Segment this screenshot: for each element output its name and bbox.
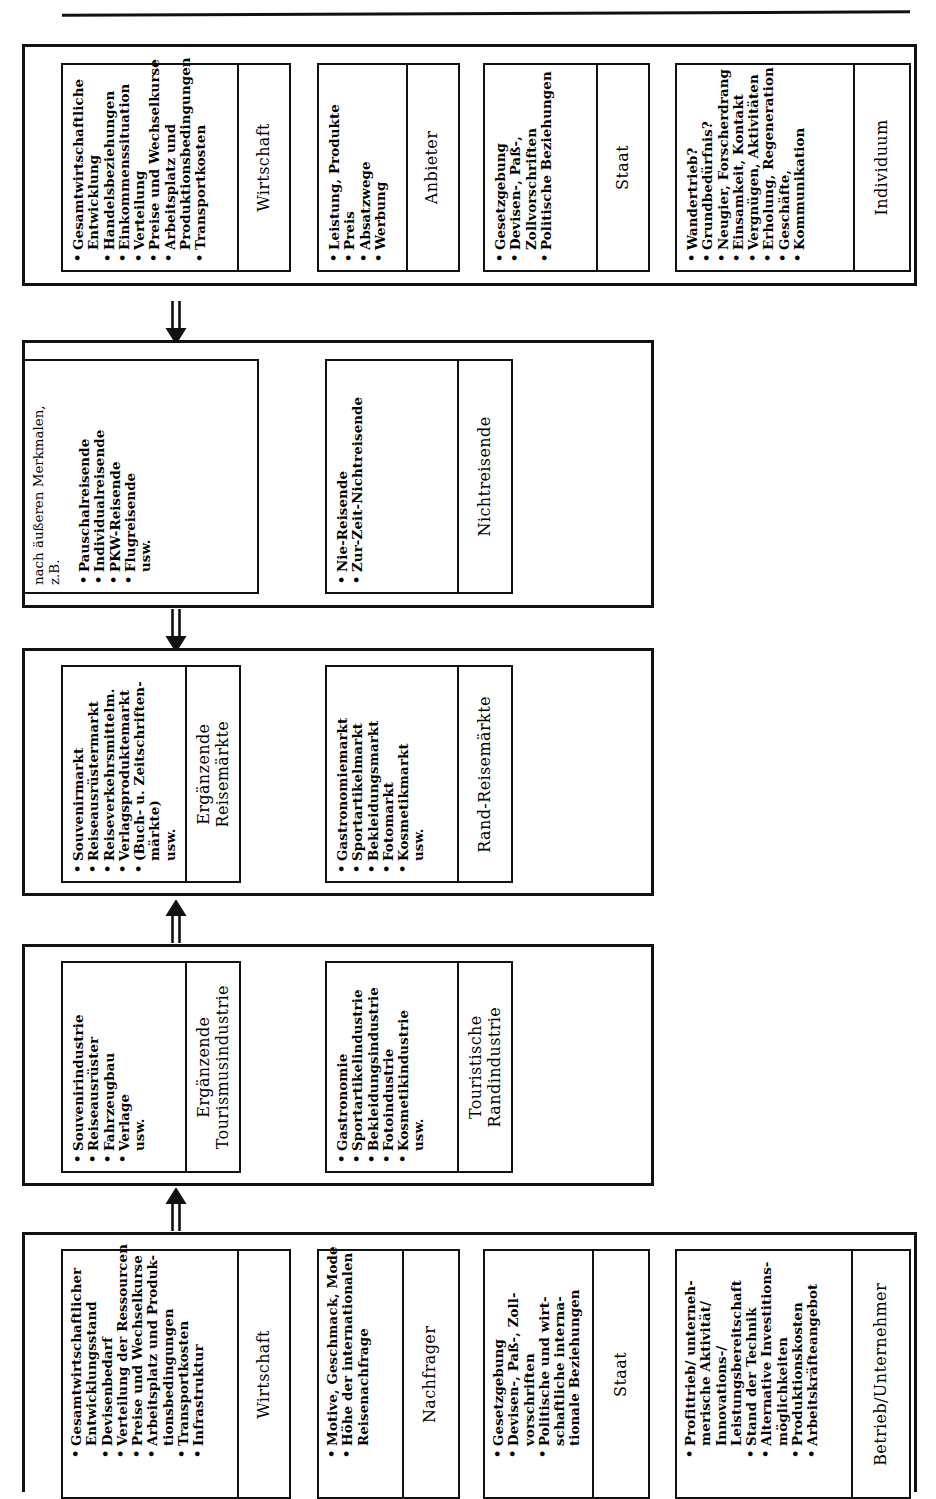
list-item: Produktionsbedingungen (178, 57, 193, 263)
list-item: Politische Beziehungen (539, 71, 554, 263)
box-title-cell: Betrieb/Unternehmer (851, 1251, 909, 1497)
item-list: Nie-Reisende Zur-Zeit-Nichtreisende (335, 397, 366, 585)
box-title-cell: Anbieter (406, 65, 458, 270)
box-individuum: Individuum Wandertrieb? Grundbedürfnis? … (675, 63, 911, 272)
box-title: Wirtschaft (255, 1330, 274, 1419)
list-item: Kosmetikindustrie (396, 987, 411, 1164)
list-item: Motive, Geschmack, Mode (325, 1246, 340, 1459)
list-item: Politische und wirt- (537, 1289, 552, 1459)
list-item: Einkommenssituation (117, 57, 132, 263)
list-item: Fotomarkt (381, 718, 396, 874)
band-einflussfaktoren-produktion: Wirtschaft Gesamtwirtschaftlicher Entwic… (22, 1232, 917, 1492)
box-title-line-1: Ergänzende (194, 1016, 213, 1117)
list-item: Arbeitskräfteangebot (805, 1261, 820, 1459)
list-item: Devisenbedarf (100, 1244, 115, 1459)
list-item: Reiseausrüstermarkt (86, 681, 101, 874)
box-title-cell: Wirtschaft (237, 1251, 289, 1497)
box-title-line-1: Ergänzende (194, 723, 213, 824)
list-item: Preis (342, 104, 357, 263)
list-item: Reiseausrüster (86, 1014, 101, 1164)
list-item: märkte) (147, 681, 162, 874)
arrow-up-2-icon (163, 1186, 189, 1232)
list-item: Arbeitsplatz und (163, 57, 178, 263)
box-title: Ergänzende Tourismusindustrie (194, 985, 232, 1149)
list-item: Geschäfte, (777, 67, 792, 263)
box-body-cell: Gesetzgebung Devisen-, Paß-, Zoll- vorsc… (485, 1251, 592, 1497)
list-item: Nie-Reisende (335, 397, 350, 585)
box-title: Anbieter (424, 131, 443, 204)
box-title-cell: Nachfrager (402, 1251, 458, 1497)
box-title: Staat (612, 1352, 631, 1397)
list-item: Gesamtwirtschaftlicher (69, 1244, 84, 1459)
item-list: Gesamtwirtschaftliche Entwicklung Handel… (71, 57, 209, 263)
box-title: Nichtreisende (476, 417, 495, 537)
list-item: Höhe der internationalen (340, 1246, 355, 1459)
band-ergaenzende-reisemaerkte: Ergänzende Reisemärkte Souvenirmarkt Rei… (22, 648, 654, 896)
box-title: Wirtschaft (255, 123, 274, 212)
list-item: Arbeitsplatz und Produk- (145, 1244, 160, 1459)
box-title-cell: Staat (596, 65, 648, 270)
list-item: Reiseverkehrsmittelm. (102, 681, 117, 874)
list-item: Verlage (117, 1014, 132, 1164)
list-item: Preise und Wechselkurse (147, 57, 162, 263)
list-item: usw. (163, 681, 178, 874)
list-item: Einsamkeit, Kontakt (731, 67, 746, 263)
list-item: usw. (132, 1014, 147, 1164)
list-item: Fotoindustrie (381, 987, 396, 1164)
list-item: Grundbedürfnis? (700, 67, 715, 263)
list-item: Verteilung der Ressourcen (115, 1244, 130, 1459)
box-title-cell: Touristische Randindustrie (457, 963, 511, 1171)
list-item: Bekleidungsmarkt (366, 718, 381, 874)
box-title: Individuum (873, 119, 892, 215)
list-item: vorschriften (522, 1289, 537, 1459)
box-touristische-randindustrie: Touristische Randindustrie Gastronomie S… (325, 961, 513, 1173)
box-staat-bottom: Staat Gesetzgebung Devisen-, Paß-, Zoll-… (483, 1249, 650, 1499)
band-reisende-nichtreisende: Pauschalreisende Individualreisende PKW-… (22, 340, 654, 608)
list-item: Transportkosten (193, 57, 208, 263)
box-body-cell: Gastronomie Sportartikelindustrie Beklei… (327, 963, 457, 1171)
box-body-cell: Leistung, Produkte Preis Absatzwege Werb… (319, 65, 406, 270)
list-item: Leistungsbereitschaft (729, 1261, 744, 1459)
box-staat-top: Staat Gesetzgebung Devisen-, Paß-, Zollv… (483, 63, 650, 272)
box-body-cell: Gesamtwirtschaftliche Entwicklung Handel… (63, 65, 237, 270)
box-body-cell: Souvenirindustrie Reiseausrüster Fahrzeu… (63, 963, 185, 1171)
list-item: Alternative Investitions- (759, 1261, 774, 1459)
box-title-cell: Individuum (853, 65, 909, 270)
box-lead-line-2: z.B. (47, 405, 63, 585)
box-body-cell: Motive, Geschmack, Mode Höhe der interna… (319, 1251, 402, 1497)
list-item: Souvenirmarkt (71, 681, 86, 874)
box-title: Nachfrager (422, 1325, 441, 1422)
list-item: Preise und Wechselkurse (130, 1244, 145, 1459)
box-body-cell: Pauschalreisende Individualreisende PKW-… (25, 361, 257, 592)
box-nach-aeusseren-merkmalen: Pauschalreisende Individualreisende PKW-… (25, 359, 259, 594)
box-ergaenzende-tourismusindustrie: Ergänzende Tourismusindustrie Souvenirin… (61, 961, 241, 1173)
list-item: Innovations-/ (714, 1261, 729, 1459)
item-list: Gesamtwirtschaftlicher Entwicklungsstand… (69, 1244, 207, 1459)
item-list: Motive, Geschmack, Mode Höhe der interna… (325, 1246, 371, 1459)
item-list: Leistung, Produkte Preis Absatzwege Werb… (327, 104, 388, 263)
list-item: usw. (411, 987, 426, 1164)
list-item: Infrastruktur (191, 1244, 206, 1459)
box-wirtschaft-top: Wirtschaft Gesamtwirtschaftliche Entwick… (61, 63, 291, 272)
top-divider-rule (62, 10, 910, 16)
list-item: Handelsbeziehungen (102, 57, 117, 263)
list-item: merische Aktivität/ (698, 1261, 713, 1459)
box-title-line-2: Tourismusindustrie (213, 985, 232, 1149)
list-item: Entwicklungsstand (84, 1244, 99, 1459)
list-item: tionale Beziehungen (567, 1289, 582, 1459)
list-item: Sportartikelindustrie (350, 987, 365, 1164)
box-body-cell: Profittrieb/ unterneh- merische Aktivitä… (677, 1251, 851, 1497)
list-item: Stand der Technik (744, 1261, 759, 1459)
list-item: Gesamtwirtschaftliche (71, 57, 86, 263)
list-item: Reisenachfrage (356, 1246, 371, 1459)
list-item: (Buch- u. Zeitschriften- (132, 681, 147, 874)
band-einflussfaktoren-reisemarkt: Wirtschaft Gesamtwirtschaftliche Entwick… (22, 44, 917, 286)
box-body-cell: Wandertrieb? Grundbedürfnis? Neugier, Fo… (677, 65, 853, 270)
box-anbieter: Anbieter Leistung, Produkte Preis Absatz… (317, 63, 460, 272)
box-title: Betrieb/Unternehmer (872, 1283, 891, 1466)
list-item: Werbung (373, 104, 388, 263)
arrow-up-1-icon (163, 898, 189, 944)
list-item: Kommunikation (792, 67, 807, 263)
list-item: schaftliche interna- (552, 1289, 567, 1459)
box-wirtschaft-bottom: Wirtschaft Gesamtwirtschaftlicher Entwic… (61, 1249, 291, 1499)
